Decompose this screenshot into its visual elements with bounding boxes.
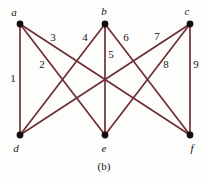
edge-line-group — [20, 24, 190, 135]
edge-label-3: 3 — [50, 31, 56, 43]
edge-label-5: 5 — [108, 48, 114, 60]
vertex-label-c: c — [185, 5, 190, 17]
graph-vertex-b — [102, 21, 109, 28]
graph-vertex-c — [187, 21, 194, 28]
edge-label-4: 4 — [82, 31, 88, 43]
vertex-label-f: f — [190, 142, 195, 154]
figure-container: 123456789 abcdef (b) — [0, 0, 207, 181]
edge-label-7: 7 — [154, 30, 160, 42]
vertex-label-b: b — [101, 5, 107, 17]
edge-label-2: 2 — [39, 58, 45, 70]
graph-vertex-a — [17, 21, 24, 28]
graph-vertex-d — [17, 132, 24, 139]
edge-label-1: 1 — [10, 72, 16, 84]
vertex-label-d: d — [13, 142, 19, 154]
edge-label-8: 8 — [163, 58, 169, 70]
edge-label-6: 6 — [123, 31, 129, 43]
vertex-label-e: e — [102, 142, 107, 154]
graph-canvas: 123456789 abcdef (b) — [0, 0, 207, 181]
vertex-label-a: a — [11, 6, 17, 18]
edge-label-9: 9 — [193, 58, 199, 70]
figure-caption: (b) — [98, 160, 111, 173]
graph-vertex-f — [187, 132, 194, 139]
graph-vertex-e — [102, 132, 109, 139]
